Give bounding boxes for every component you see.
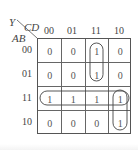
row-var-label: AB	[12, 32, 25, 44]
kmap-grid: 0 0 1 0 0 0 1 0 1 1 1 1 0 0 0 1	[37, 38, 131, 134]
cell-11-00: 1	[38, 87, 62, 111]
cell-00-00: 0	[38, 39, 62, 63]
cell-01-11: 1	[85, 63, 109, 87]
row-header-00: 00	[22, 44, 32, 56]
cell-00-10: 0	[109, 39, 133, 63]
cell-11-11: 1	[85, 87, 109, 111]
output-label: Y	[9, 16, 15, 28]
row-header-10: 10	[22, 116, 32, 128]
cell-00-01: 0	[62, 39, 86, 63]
caption-cutoff	[0, 144, 138, 150]
col-header-10: 10	[114, 25, 124, 37]
cell-11-01: 1	[62, 87, 86, 111]
col-var-label: CD	[24, 21, 39, 33]
cell-10-00: 0	[38, 111, 62, 135]
row-header-11: 11	[22, 92, 32, 104]
cell-00-11: 1	[85, 39, 109, 63]
cell-11-10: 1	[109, 87, 133, 111]
cell-01-00: 0	[38, 63, 62, 87]
cell-10-11: 0	[85, 111, 109, 135]
cell-10-01: 0	[62, 111, 86, 135]
col-header-11: 11	[91, 25, 101, 37]
col-header-01: 01	[67, 25, 77, 37]
cell-10-10: 1	[109, 111, 133, 135]
row-header-01: 01	[22, 68, 32, 80]
cell-01-10: 0	[109, 63, 133, 87]
cell-01-01: 0	[62, 63, 86, 87]
col-header-00: 00	[44, 25, 54, 37]
